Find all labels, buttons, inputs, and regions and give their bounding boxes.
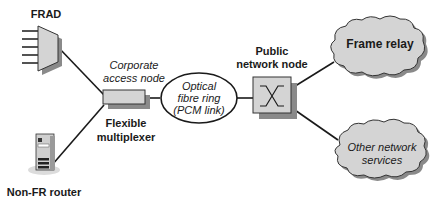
ring-label-line3: (PCM link) [164, 104, 234, 117]
network-diagram: FRAD Non-FR router Corporate access node… [0, 0, 439, 211]
switch-icon [253, 77, 297, 119]
access-node-caption-line2: access node [94, 72, 174, 85]
multiplexer-icon [103, 90, 150, 109]
router-label: Non-FR router [4, 186, 84, 199]
frame-relay-label: Frame relay [338, 38, 422, 51]
router-icon [28, 134, 60, 175]
frad-label: FRAD [26, 8, 66, 21]
public-node-label-line1: Public [232, 45, 312, 58]
frad-icon [22, 26, 62, 75]
public-node-label-line2: network node [232, 58, 312, 71]
access-node-caption-line1: Corporate [94, 59, 174, 72]
multiplexer-label-line2: multiplexer [86, 131, 166, 144]
other-services-label-line1: Other network [340, 141, 424, 154]
other-services-label-line2: services [340, 154, 424, 167]
multiplexer-label-line1: Flexible [86, 117, 166, 130]
